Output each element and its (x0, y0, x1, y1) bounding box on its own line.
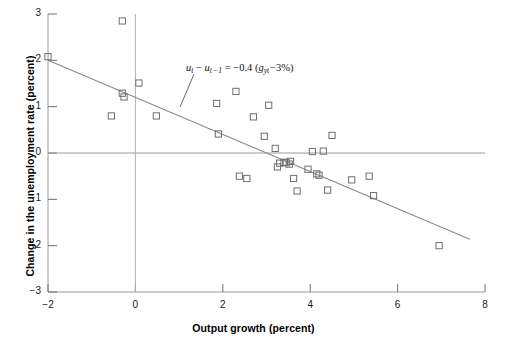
data-point-marker (366, 173, 372, 179)
data-point-marker (329, 132, 335, 138)
data-point-marker (121, 94, 127, 100)
x-axis-title: Output growth (percent) (0, 322, 507, 334)
y-tick-label: −1 (15, 192, 41, 203)
x-tick-label: 6 (383, 299, 413, 310)
data-point-marker (108, 113, 114, 119)
y-tick-label: 2 (15, 53, 41, 64)
y-tick-label: −3 (15, 285, 41, 296)
scatter-series (45, 18, 442, 249)
x-tick-label: 8 (470, 299, 500, 310)
annotation-minus-sign: − (193, 62, 204, 73)
data-point-marker (272, 145, 278, 151)
data-point-marker (274, 164, 280, 170)
data-point-marker (136, 80, 142, 86)
x-tick-label: −2 (33, 299, 63, 310)
data-point-marker (309, 149, 315, 155)
annotation-three-percent: −3%) (269, 62, 293, 73)
data-point-marker (244, 175, 250, 181)
data-point-marker (236, 173, 242, 179)
y-tick-label: 0 (15, 146, 41, 157)
regression-equation-annotation: ut − ut − 1 = −0.4 (gyt −3%) (186, 62, 293, 75)
chart-plot-area (0, 0, 507, 347)
data-point-marker (290, 175, 296, 181)
data-point-marker (261, 133, 267, 139)
x-tick-label: 0 (120, 299, 150, 310)
okun-law-scatter-chart: Output growth (percent) Change in the un… (0, 0, 507, 347)
data-point-marker (294, 188, 300, 194)
y-tick-label: 1 (15, 100, 41, 111)
y-tick-label: 3 (15, 7, 41, 18)
data-point-marker (266, 102, 272, 108)
y-axis-title: Change in the unemployment rate (percent… (24, 36, 36, 296)
data-point-marker (153, 113, 159, 119)
data-point-marker (233, 88, 239, 94)
annotation-subscript-t-minus-1: t − 1 (210, 66, 222, 75)
data-point-marker (436, 243, 442, 249)
annotation-leader-line (180, 74, 194, 107)
data-point-marker (250, 114, 256, 120)
x-tick-label: 4 (295, 299, 325, 310)
x-tick-label: 2 (208, 299, 238, 310)
annotation-equals-sign: = −0.4 ( (222, 62, 258, 73)
data-point-marker (325, 187, 331, 193)
y-tick-label: −2 (15, 239, 41, 250)
regression-fit-line (48, 60, 470, 239)
data-point-marker (119, 18, 125, 24)
data-point-marker (214, 100, 220, 106)
data-point-marker (349, 177, 355, 183)
